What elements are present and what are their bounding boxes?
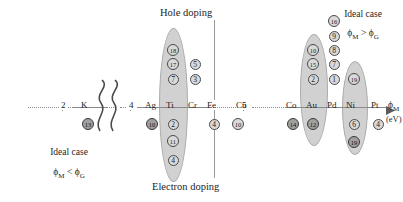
data-point-au-15-above: 15	[307, 58, 319, 70]
data-point-pd-7-above: 7	[329, 59, 340, 70]
data-point-au-10-above: 10	[307, 44, 319, 56]
data-point-ti-17-above: 17	[167, 58, 179, 70]
doping-divider-upper	[214, 20, 215, 100]
data-point-ag-10-below: 10	[146, 118, 158, 130]
data-point-ni-19-above: 19	[348, 73, 360, 85]
element-label-co: Co	[286, 101, 297, 110]
electron-doping-label: Electron doping	[152, 182, 219, 193]
axis-break-squiggle	[88, 78, 130, 138]
element-label-pt: Pt	[371, 101, 379, 110]
element-label-au: Au	[306, 101, 317, 110]
data-point-cr-3-above: 3	[190, 74, 201, 85]
data-point-cr-5-above: 5	[190, 59, 201, 70]
axis-tick-4: 4	[127, 101, 136, 110]
hole-doping-label: Hole doping	[160, 8, 212, 19]
ideal-case-right-line1: Ideal case	[327, 10, 399, 20]
ideal-case-right-line2: ϕM > ϕG	[327, 29, 399, 41]
data-point-ti-18-above: 18	[167, 44, 179, 56]
data-point-ti-4-below: 4	[168, 155, 179, 166]
element-label-k: K	[81, 101, 88, 110]
data-point-fe-4-below: 4	[209, 119, 220, 130]
data-point-cu-10-below: 10	[232, 118, 244, 130]
data-point-pd-1-above: 1	[329, 74, 340, 85]
element-label-ti: Ti	[166, 101, 174, 110]
data-point-ti-11-below: 11	[167, 135, 179, 147]
phi-g-right-sub: G	[374, 33, 379, 41]
data-point-au-12-below: 12	[307, 118, 319, 130]
operator-right: >	[361, 28, 366, 38]
data-point-ti-2-below: 2	[168, 119, 179, 130]
phi-g-left-sub: G	[80, 172, 85, 180]
element-label-fe: Fe	[207, 101, 216, 110]
element-label-pd: Pd	[327, 101, 337, 110]
ideal-case-left-line1: Ideal case	[24, 148, 114, 158]
data-point-k-13-below: 13	[82, 118, 94, 130]
operator-left: <	[67, 167, 72, 177]
figure-canvas: Hole doping Electron doping 245 KAgTiCrF…	[0, 0, 403, 202]
axis-title-subscript: M	[393, 105, 399, 113]
axis-segment-5	[252, 107, 286, 108]
data-point-ti-7-above: 7	[168, 74, 179, 85]
axis-title: ϕM	[388, 101, 399, 113]
data-point-au-2-above: 2	[308, 74, 319, 85]
element-label-ag: Ag	[145, 101, 156, 110]
phi-m-left-sub: M	[58, 172, 64, 180]
axis-unit-label: (eV)	[386, 115, 402, 124]
data-point-pt-4-below: 4	[373, 119, 384, 130]
ideal-case-left-line2: ϕM < ϕG	[24, 168, 114, 180]
element-label-ni: Ni	[346, 101, 355, 110]
element-label-cr: Cr	[188, 101, 197, 110]
axis-tick-2: 2	[59, 101, 68, 110]
data-point-ni-19-below: 19	[348, 136, 360, 148]
data-point-co-14-below: 14	[287, 118, 299, 130]
data-point-pd-8-above: 8	[329, 45, 340, 56]
element-label-cu: Cu	[236, 101, 247, 110]
phi-m-right-sub: M	[352, 33, 358, 41]
data-point-ni-6-below: 6	[349, 119, 360, 130]
